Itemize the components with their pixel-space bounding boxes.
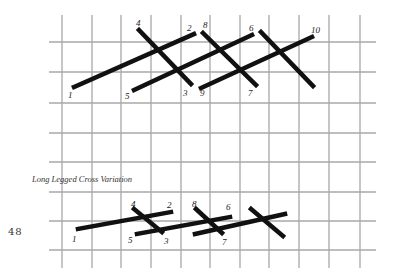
stitch-number-label: 7 [248, 89, 253, 98]
stitch-number-label: 3 [164, 237, 169, 246]
stitch-number-label: 1 [68, 91, 73, 100]
diagram-caption: Long Legged Cross Variation [32, 175, 132, 184]
stitch-number-label: 2 [167, 201, 172, 210]
page-number: 48 [8, 227, 23, 237]
top-stitch-diagram [74, 30, 313, 90]
stitch-number-label: 8 [203, 21, 208, 30]
stitch-diagram [0, 0, 395, 280]
stitch-number-label: 8 [192, 200, 197, 209]
stitch-number-label: 7 [222, 238, 227, 247]
stitch-number-label: 6 [249, 24, 254, 33]
stitch-number-label: 6 [226, 203, 231, 212]
stitch-number-label: 5 [125, 92, 130, 101]
stitch-number-label: 1 [72, 235, 77, 244]
stitch-number-label: 4 [131, 200, 136, 209]
stitch-number-label: 9 [200, 89, 205, 98]
stitch-number-label: 4 [136, 19, 141, 28]
stitch-number-label: 3 [183, 89, 188, 98]
stitch-number-label: 10 [311, 26, 320, 35]
stitch-number-label: 2 [187, 24, 192, 33]
stitch-number-label: 5 [128, 236, 133, 245]
